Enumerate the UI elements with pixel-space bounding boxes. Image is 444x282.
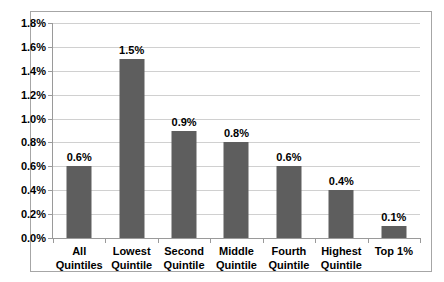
value-axis-tick-label: 0.0% <box>21 232 46 244</box>
bar-data-label: 0.8% <box>224 127 249 139</box>
value-axis-tick-label: 0.4% <box>21 184 46 196</box>
bar-data-label: 0.9% <box>172 116 197 128</box>
value-axis-tick-label: 1.8% <box>21 17 46 29</box>
bar-data-label: 0.6% <box>67 151 92 163</box>
category-axis-tick <box>210 238 211 243</box>
category-axis-tick <box>158 238 159 243</box>
bar[interactable] <box>224 142 249 238</box>
category-axis-label-line: Quintile <box>216 259 257 273</box>
category-axis-tick <box>105 238 106 243</box>
category-axis-label-line: Highest <box>321 245 362 259</box>
value-axis-tick-label: 0.8% <box>21 136 46 148</box>
bar-data-label: 0.1% <box>381 211 406 223</box>
category-axis-label: HighestQuintile <box>321 245 362 273</box>
bar[interactable] <box>67 166 92 238</box>
category-axis-tick <box>315 238 316 243</box>
category-axis-label-line: Quintile <box>321 259 362 273</box>
plot-area: 0.0%0.2%0.4%0.6%0.8%1.0%1.2%1.4%1.6%1.8%… <box>53 23 420 238</box>
category-axis-label: SecondQuintile <box>164 245 205 273</box>
category-axis-label-line: All <box>56 245 103 259</box>
bar[interactable] <box>381 226 406 238</box>
bar[interactable] <box>172 131 197 239</box>
value-axis-tick-label: 1.4% <box>21 65 46 77</box>
category-axis-tick <box>420 238 421 243</box>
bar[interactable] <box>276 166 301 238</box>
category-axis-label: FourthQuintile <box>268 245 309 273</box>
category-axis-label-line: Quintile <box>164 259 205 273</box>
bar[interactable] <box>329 190 354 238</box>
category-axis-label-line: Quintiles <box>56 259 103 273</box>
value-axis-tick-label: 0.6% <box>21 160 46 172</box>
axis-baseline <box>53 238 420 239</box>
category-axis-tick <box>263 238 264 243</box>
category-axis-label: LowestQuintile <box>111 245 152 273</box>
value-axis-tick-label: 1.6% <box>21 41 46 53</box>
bar-slot: 0.8% <box>210 23 262 238</box>
category-axis-label-line: Quintile <box>268 259 309 273</box>
category-axis-tick <box>53 238 54 243</box>
bar-data-label: 1.5% <box>119 44 144 56</box>
category-axis-label-line: Top 1% <box>375 245 413 259</box>
value-axis-tick-label: 0.2% <box>21 208 46 220</box>
category-axis-label-line: Fourth <box>268 245 309 259</box>
bar-slot: 0.6% <box>53 23 105 238</box>
bar-data-label: 0.4% <box>329 175 354 187</box>
category-axis-label-line: Quintile <box>111 259 152 273</box>
bar-slot: 0.6% <box>263 23 315 238</box>
value-axis-tick-label: 1.2% <box>21 89 46 101</box>
bar-slot: 1.5% <box>105 23 157 238</box>
category-axis-label-line: Second <box>164 245 205 259</box>
category-axis-label: MiddleQuintile <box>216 245 257 273</box>
bar-slot: 0.4% <box>315 23 367 238</box>
bar[interactable] <box>119 59 144 238</box>
bar-data-label: 0.6% <box>276 151 301 163</box>
category-axis-tick <box>368 238 369 243</box>
bar-slot: 0.1% <box>368 23 420 238</box>
category-axis-label-line: Middle <box>216 245 257 259</box>
category-axis-label: AllQuintiles <box>56 245 103 273</box>
chart-frame: 0.0%0.2%0.4%0.6%0.8%1.0%1.2%1.4%1.6%1.8%… <box>30 11 432 272</box>
bar-slot: 0.9% <box>158 23 210 238</box>
value-axis-tick-label: 1.0% <box>21 113 46 125</box>
category-axis-label-line: Lowest <box>111 245 152 259</box>
category-axis-label: Top 1% <box>375 245 413 259</box>
